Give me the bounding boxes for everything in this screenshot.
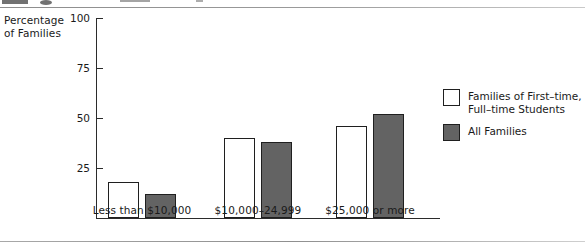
legend-item: All Families	[443, 124, 582, 141]
legend-swatch-open-icon	[443, 89, 460, 106]
y-axis-tick-label: 25	[77, 162, 90, 174]
y-axis-title-line1: Percentage	[4, 14, 64, 27]
scan-artifact	[120, 0, 150, 2]
bar	[373, 114, 404, 218]
page-bottom-rule	[0, 241, 585, 242]
x-axis-line	[96, 218, 440, 219]
y-axis-tick-mark	[96, 18, 103, 19]
scan-artifact	[196, 0, 203, 2]
y-axis-tick-mark	[96, 118, 103, 119]
y-axis-tick-mark	[96, 68, 103, 69]
legend-item-label: All Families	[468, 124, 527, 138]
x-axis-category-label: Less than $10,000	[93, 204, 192, 216]
legend-item-label: Families of First–time, Full–time Studen…	[468, 89, 582, 115]
y-axis-tick-label: 50	[77, 112, 90, 124]
x-axis-category-label: $10,000–24,999	[215, 204, 302, 216]
x-axis-category-label: $25,000 or more	[325, 204, 415, 216]
y-axis-tick-mark	[96, 168, 103, 169]
chart-page: Percentage of Families 255075100 Less th…	[0, 0, 585, 248]
legend-item: Families of First–time, Full–time Studen…	[443, 89, 582, 115]
y-axis-title-line2: of Families	[4, 27, 64, 40]
y-axis-tick-label: 75	[77, 62, 90, 74]
legend-swatch-filled-icon	[443, 124, 460, 141]
plot-area: 255075100	[96, 18, 440, 219]
scan-artifact	[2, 0, 28, 4]
chart-legend: Families of First–time, Full–time Studen…	[443, 89, 582, 150]
scan-artifact	[40, 0, 52, 5]
y-axis-tick-label: 100	[70, 12, 90, 24]
y-axis-title: Percentage of Families	[4, 14, 64, 40]
page-top-rule	[0, 7, 585, 8]
